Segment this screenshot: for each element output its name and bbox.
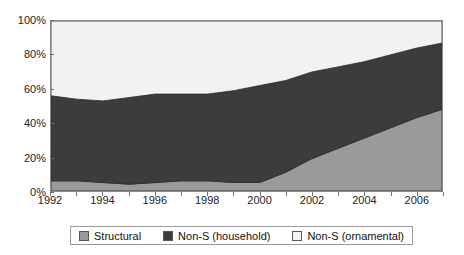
x-tick-mark <box>207 192 208 196</box>
legend-item-label: Structural <box>94 230 141 242</box>
y-tick-mark <box>50 123 54 124</box>
x-tick-mark <box>102 192 103 196</box>
y-tick-label: 100% <box>0 15 46 26</box>
y-tick-label: 20% <box>0 153 46 164</box>
x-tick-mark <box>50 192 51 196</box>
chart-legend: StructuralNon-S (household)Non-S (orname… <box>70 226 413 245</box>
x-tick-mark <box>364 192 365 196</box>
legend-swatch-icon <box>79 231 89 241</box>
x-tick-mark <box>391 192 392 196</box>
y-axis: 0%20%40%60%80%100% <box>0 0 46 215</box>
y-tick-label: 80% <box>0 49 46 60</box>
series-group <box>51 21 442 191</box>
y-tick-mark <box>50 158 54 159</box>
y-tick-mark <box>50 54 54 55</box>
legend-item[interactable]: Non-S (ornamental) <box>292 230 404 242</box>
x-tick-mark <box>129 192 130 196</box>
y-tick-label: 60% <box>0 84 46 95</box>
x-tick-mark <box>181 192 182 196</box>
y-tick-mark <box>50 20 54 21</box>
legend-item[interactable]: Non-S (household) <box>163 230 270 242</box>
y-tick-mark <box>50 89 54 90</box>
y-tick-label: 40% <box>0 118 46 129</box>
stacked-area-chart: 0%20%40%60%80%100% 199219941996199820002… <box>0 0 464 255</box>
x-tick-mark <box>338 192 339 196</box>
x-tick-mark <box>417 192 418 196</box>
x-axis: 19921994199619982000200220042006 <box>0 194 464 212</box>
x-tick-mark <box>260 192 261 196</box>
plot-area <box>50 20 443 192</box>
x-tick-mark <box>155 192 156 196</box>
x-tick-mark <box>76 192 77 196</box>
legend-swatch-icon <box>163 231 173 241</box>
x-tick-mark <box>443 192 444 196</box>
x-tick-mark <box>312 192 313 196</box>
legend-item-label: Non-S (household) <box>178 230 270 242</box>
legend-item[interactable]: Structural <box>79 230 141 242</box>
legend-item-label: Non-S (ornamental) <box>307 230 404 242</box>
x-tick-mark <box>233 192 234 196</box>
x-tick-mark <box>286 192 287 196</box>
legend-swatch-icon <box>292 231 302 241</box>
